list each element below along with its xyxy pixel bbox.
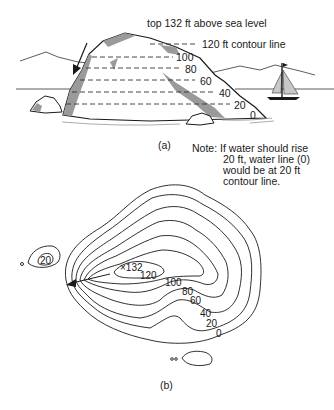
contour-label-100: 100 (176, 51, 194, 63)
map-contour-label-0: 0 (216, 328, 222, 339)
water-rise-note: Note: If water should rise 20 ft, water … (192, 143, 332, 187)
bottom-islet (182, 351, 212, 365)
island-profile-view: top 132 ft above sea level 120 ft contou… (16, 17, 334, 125)
map-contour-label-60: 60 (190, 295, 202, 306)
contour-label-40: 40 (219, 87, 231, 99)
contour-label-80: 80 (185, 63, 197, 75)
sailboat (267, 63, 300, 100)
islet-label-20: 20 (40, 255, 52, 266)
tiny-rock-left (21, 263, 24, 266)
contour-label-20: 20 (234, 99, 246, 111)
contour-label-60: 60 (200, 75, 212, 87)
contour-label-0: 0 (250, 109, 256, 121)
caption-a: (a) (158, 139, 171, 151)
map-contour-label-120: 120 (140, 270, 157, 281)
note-line-4: contour line. (192, 176, 332, 187)
map-arrow (72, 274, 110, 283)
contour-line-60 (80, 220, 228, 305)
map-contour-label-100: 100 (165, 277, 182, 288)
contour-diagram: top 132 ft above sea level 120 ft contou… (0, 0, 334, 410)
contour-line-0 (65, 185, 261, 343)
caption-b: (b) (160, 379, 173, 391)
summit-height-label: top 132 ft above sea level (147, 17, 267, 29)
contour-120-label: 120 ft contour line (202, 38, 286, 50)
